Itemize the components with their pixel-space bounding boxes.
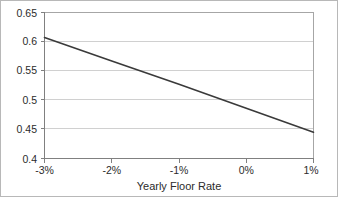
x-tick-label--2: -2% [102,164,121,176]
x-axis-ticks [45,159,314,163]
x-tick-label--1: -1% [170,164,189,176]
y-tick-label-0.50: 0.5 [22,94,37,106]
x-tick-label--3: -3% [35,164,54,176]
line-chart: 0.65 0.6 0.55 0.5 0.45 0.4 -3% -2% -1% 0… [1,1,337,196]
y-tick-label-0.45: 0.45 [17,123,38,135]
y-tick-label-0.55: 0.55 [17,64,38,76]
y-tick-label-0.65: 0.65 [17,7,38,19]
x-tick-label-0: 0% [239,164,254,176]
y-tick-label-0.60: 0.6 [22,35,37,47]
x-axis-tick-labels: -3% -2% -1% 0% 1% [35,164,318,176]
x-axis-title: Yearly Floor Rate [137,180,222,192]
chart-figure: 0.65 0.6 0.55 0.5 0.45 0.4 -3% -2% -1% 0… [0,0,338,197]
y-axis-tick-labels: 0.65 0.6 0.55 0.5 0.45 0.4 [17,7,38,165]
y-axis-ticks [41,13,45,159]
x-tick-label-1: 1% [303,164,318,176]
